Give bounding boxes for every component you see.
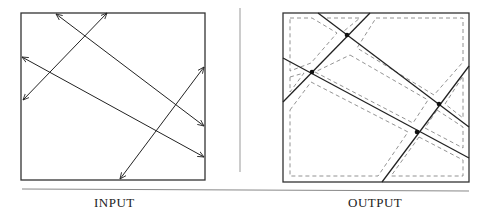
diagram-canvas <box>0 0 490 220</box>
input-panel <box>21 13 205 180</box>
baseline-rule <box>22 189 469 191</box>
input-label: INPUT <box>94 195 135 211</box>
output-label: OUTPUT <box>348 195 402 211</box>
output-panel <box>283 13 469 182</box>
